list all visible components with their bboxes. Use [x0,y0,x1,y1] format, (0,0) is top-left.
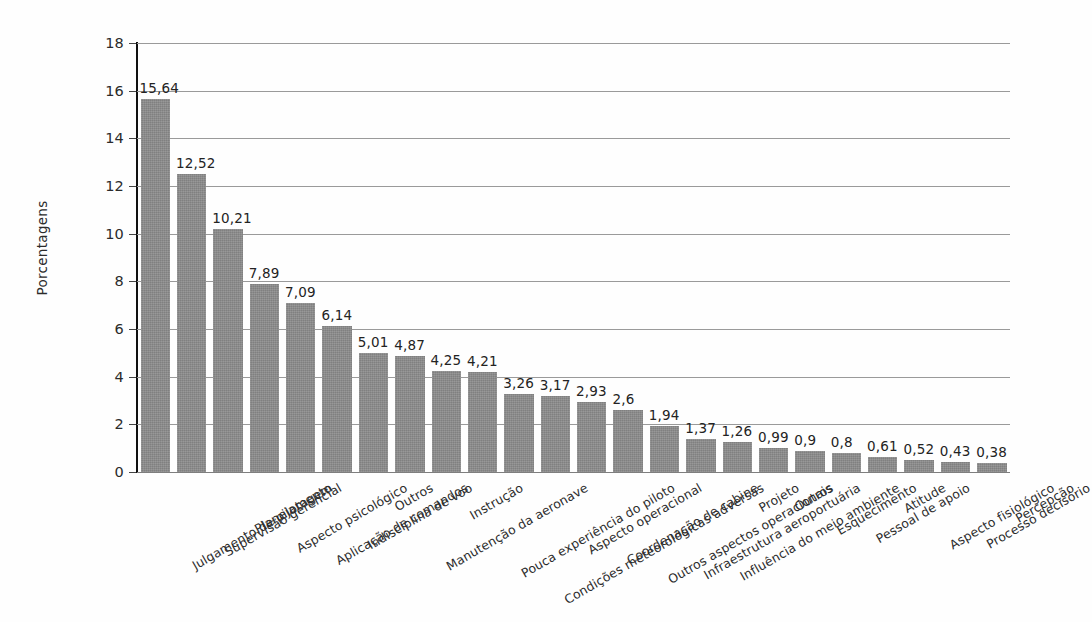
bar-value-label: 2,6 [612,391,634,407]
bar [650,426,679,472]
bar [322,326,351,472]
y-tick-10 [129,234,136,235]
gridline-14 [137,138,1010,139]
bar-value-label: 0,9 [794,432,816,448]
bar [723,442,752,472]
bar [141,99,170,472]
bar-value-label: 0,38 [976,444,1007,460]
bar [177,174,206,472]
bar [286,303,315,472]
bar-value-label: 4,25 [431,352,462,368]
y-tick-12 [129,186,136,187]
bar [759,448,788,472]
y-tick-label: 2 [98,416,124,432]
bar [977,463,1006,472]
y-tick-label: 12 [98,178,124,194]
gridline-16 [137,91,1010,92]
category-label: Pouca experiência do piloto [518,480,677,581]
bar [795,451,824,472]
bar-value-label: 1,37 [685,420,716,436]
y-tick-label: 16 [98,83,124,99]
bar-value-label: 12,52 [176,155,216,171]
gridline-10 [137,234,1010,235]
bar [432,371,461,472]
bar [613,410,642,472]
bar [832,453,861,472]
y-tick-16 [129,91,136,92]
bar-value-label: 7,89 [249,265,280,281]
gridline-18 [137,43,1010,44]
bar-value-label: 0,61 [867,438,898,454]
y-tick-label: 14 [98,130,124,146]
bar [468,372,497,472]
y-tick-label: 18 [98,35,124,51]
gridline-8 [137,281,1010,282]
y-tick-0 [129,472,136,473]
bar [541,396,570,472]
bar-value-label: 0,8 [831,434,853,450]
bar [904,460,933,472]
bar-value-label: 4,87 [394,337,425,353]
gridline-12 [137,186,1010,187]
bar-value-label: 3,17 [540,377,571,393]
y-tick-label: 6 [98,321,124,337]
y-tick-6 [129,329,136,330]
bar-value-label: 0,99 [758,429,789,445]
y-tick-label: 4 [98,369,124,385]
y-tick-label: 8 [98,273,124,289]
y-tick-18 [129,43,136,44]
y-tick-label: 10 [98,226,124,242]
bar-value-label: 1,26 [722,423,753,439]
bar [504,394,533,472]
bar [395,356,424,472]
bar-value-label: 1,94 [649,407,680,423]
y-tick-2 [129,424,136,425]
bar-value-label: 10,21 [212,210,252,226]
y-tick-4 [129,377,136,378]
category-label: Instrução [466,480,525,523]
bar [686,439,715,472]
bar-value-label: 0,52 [903,441,934,457]
bar-value-label: 7,09 [285,284,316,300]
bar [577,402,606,472]
bar [941,462,970,472]
y-tick-14 [129,138,136,139]
bar-value-label: 5,01 [358,334,389,350]
bar-value-label: 3,26 [503,375,534,391]
bar [213,229,242,472]
y-axis-title: Porcentagens [34,200,50,295]
bar-value-label: 6,14 [321,307,352,323]
plot-area [137,43,1010,472]
bar-value-label: 0,43 [940,443,971,459]
y-tick-8 [129,281,136,282]
bar-value-label: 2,93 [576,383,607,399]
bar-value-label: 4,21 [467,353,498,369]
gridline-0 [137,472,1010,473]
bar-value-label: 15,64 [140,80,180,96]
y-tick-label: 0 [98,464,124,480]
bar [359,353,388,472]
bar [868,457,897,472]
bar [250,284,279,472]
